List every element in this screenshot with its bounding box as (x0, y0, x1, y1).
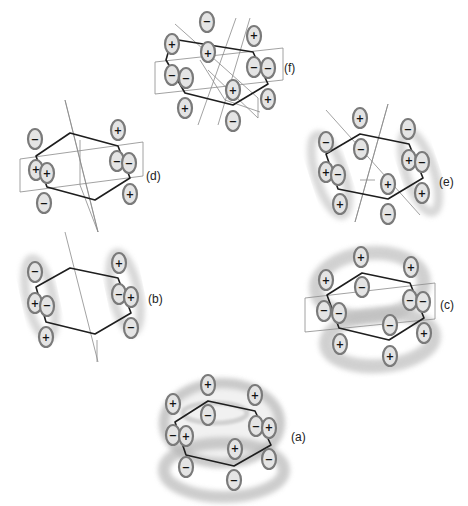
svg-text:−: − (322, 137, 330, 148)
p-orbital-lobe: + (124, 287, 138, 307)
p-orbital-lobe: − (354, 139, 368, 159)
p-orbital-lobe: + (40, 163, 54, 183)
svg-text:+: + (126, 189, 134, 200)
p-orbital-lobe: + (111, 120, 125, 140)
svg-text:−: − (182, 73, 190, 84)
panel-a: + − + − + − + − + − + − (a) (160, 375, 306, 497)
nodal-plane (218, 18, 250, 125)
svg-text:−: − (335, 308, 343, 319)
svg-text:+: + (322, 275, 330, 286)
svg-text:−: − (168, 70, 176, 81)
svg-text:−: − (182, 462, 190, 473)
svg-text:+: + (182, 431, 190, 442)
p-orbital-lobe: − (247, 57, 261, 77)
panel-label-d: (d) (146, 169, 161, 183)
svg-text:+: + (43, 168, 51, 179)
p-orbital-lobe: − (332, 303, 346, 323)
p-orbital-lobe: + (404, 257, 418, 277)
svg-text:+: + (407, 262, 415, 273)
svg-text:−: − (31, 266, 39, 277)
panel-label-e: (e) (439, 175, 454, 189)
p-orbital-lobe: + (39, 327, 53, 347)
p-orbital-lobe: − (124, 318, 138, 338)
p-orbital-lobe: + (166, 394, 180, 414)
svg-text:−: − (334, 169, 342, 180)
svg-text:−: − (40, 198, 48, 209)
svg-text:+: + (384, 179, 392, 190)
svg-text:+: + (114, 125, 122, 136)
svg-text:+: + (250, 30, 258, 41)
p-orbital-lobe: − (40, 296, 54, 316)
panel-e: − + − + + − − + − + + − (e) (304, 104, 454, 224)
nodal-plane (80, 140, 98, 232)
p-orbital-lobe: + (402, 150, 416, 170)
p-orbital-lobe: + (354, 247, 368, 267)
svg-text:−: − (127, 322, 135, 333)
p-orbital-lobe: + (262, 418, 276, 438)
p-orbitals-d: − + + − + − − + (28, 120, 137, 213)
svg-text:−: − (404, 124, 412, 135)
svg-text:+: + (265, 422, 273, 433)
svg-text:+: + (264, 94, 272, 105)
p-orbital-lobe: + (112, 253, 126, 273)
svg-text:−: − (418, 157, 426, 168)
svg-text:+: + (127, 292, 135, 303)
p-orbital-lobe: + (178, 98, 192, 118)
svg-text:−: − (265, 454, 273, 465)
panel-label-c: (c) (440, 298, 454, 312)
p-orbital-lobe: + (226, 80, 240, 100)
p-orbital-lobe: − (383, 315, 397, 335)
panel-c: + − + − − + + − − + − + (c) (305, 247, 454, 371)
svg-text:+: + (357, 252, 365, 263)
svg-text:+: + (386, 351, 394, 362)
svg-text:−: − (125, 158, 133, 169)
svg-text:−: − (230, 475, 238, 486)
svg-text:+: + (420, 328, 428, 339)
p-orbital-lobe: − (122, 153, 136, 173)
p-orbital-lobe: − (179, 68, 193, 88)
svg-text:−: − (43, 300, 51, 311)
svg-text:−: − (384, 209, 392, 220)
p-orbital-lobe: + (261, 89, 275, 109)
nodal-plane (65, 100, 98, 232)
panel-d: − + + − + − − + (d) (20, 100, 161, 232)
svg-text:−: − (203, 16, 211, 27)
svg-text:+: + (322, 167, 330, 178)
svg-text:−: − (357, 144, 365, 155)
svg-text:−: − (419, 296, 427, 307)
svg-text:−: − (264, 63, 272, 74)
p-orbital-lobe: + (381, 174, 395, 194)
p-orbital-lobe: + (123, 184, 137, 204)
p-orbital-lobe: + (165, 34, 179, 54)
svg-text:+: + (251, 390, 259, 401)
p-orbital-lobe: − (179, 457, 193, 477)
p-orbital-lobe: − (37, 193, 51, 213)
p-orbital-lobe: + (353, 108, 367, 128)
p-orbital-lobe: − (200, 12, 214, 32)
p-orbital-lobe: − (166, 425, 180, 445)
p-orbital-lobe: − (381, 204, 395, 224)
p-orbital-lobe: − (355, 277, 369, 297)
svg-text:−: − (406, 295, 414, 306)
svg-text:+: + (31, 298, 39, 309)
p-orbital-lobe: − (319, 132, 333, 152)
panel-b: − + − + + − + − (b) (19, 232, 163, 362)
p-orbital-lobe: − (317, 301, 331, 321)
svg-text:+: + (204, 48, 212, 59)
svg-text:+: + (231, 443, 239, 454)
p-orbital-lobe: + (248, 385, 262, 405)
svg-text:−: − (113, 156, 121, 167)
panel-label-a: (a) (291, 430, 306, 444)
panel-label-b: (b) (148, 292, 163, 306)
p-orbital-lobe: − (331, 165, 345, 185)
svg-text:+: + (168, 39, 176, 50)
p-orbital-lobe: + (179, 426, 193, 446)
svg-text:−: − (252, 421, 260, 432)
svg-text:+: + (336, 199, 344, 210)
svg-text:−: − (169, 430, 177, 441)
p-orbital-lobe: − (28, 129, 42, 149)
p-orbital-lobe: + (201, 375, 215, 395)
nodal-plane (198, 18, 236, 125)
p-orbital-lobe: + (319, 270, 333, 290)
svg-text:+: + (181, 103, 189, 114)
